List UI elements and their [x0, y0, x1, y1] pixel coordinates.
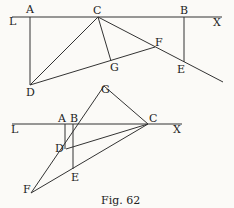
bottom-figure: [12, 86, 182, 193]
geometry-figure: [0, 0, 234, 208]
top-figure: [12, 17, 223, 85]
